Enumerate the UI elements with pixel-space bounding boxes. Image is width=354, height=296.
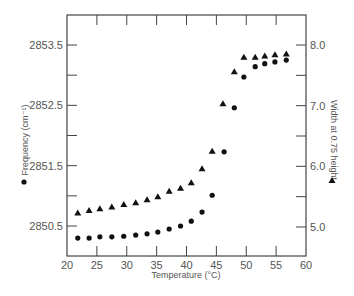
frequency-point [262,61,267,66]
left-y-tick-label: 2850.5 [29,220,63,232]
width-point [96,205,103,211]
frequency-point [75,235,80,240]
width-point [74,210,81,216]
left-y-tick-label: 2851.5 [29,160,63,172]
width-point [120,201,127,207]
x-tick-label: 55 [270,259,282,271]
x-tick-label: 50 [240,259,252,271]
width-point [271,51,278,57]
frequency-point [189,219,194,224]
width-point [209,148,216,154]
data-points [74,51,290,241]
frequency-point [178,223,183,228]
right-y-axis-ticks: 5.06.07.08.0 [296,39,325,233]
x-tick-label: 60 [300,259,312,271]
width-point [108,203,115,209]
width-point [252,54,259,60]
x-tick-label: 30 [121,259,133,271]
left-y-tick-label: 2852.5 [29,99,63,111]
frequency-point [121,234,126,239]
frequency-point [109,234,114,239]
width-point [199,165,206,171]
width-point [86,207,93,213]
width-point [154,193,161,199]
left-y-axis-label: Frequency (cm⁻¹) [20,104,30,175]
frequency-point [232,105,237,110]
frequency-point [87,235,92,240]
right-y-axis-label: Width at 0.75 height [329,100,339,181]
width-point [144,196,151,202]
width-point [166,188,173,194]
legend-circle-marker-icon [21,179,26,184]
left-y-axis-ticks: 2850.52851.52852.52853.5 [29,39,77,232]
frequency-point [272,59,277,64]
width-point [283,51,290,57]
right-y-tick-label: 6.0 [310,160,325,172]
frequency-point [155,229,160,234]
frequency-point [253,64,258,69]
right-y-tick-label: 8.0 [310,39,325,51]
plot-border [67,15,306,256]
dual-axis-scatter-chart: 202530354045505560 2850.52851.52852.5285… [0,0,354,296]
width-point [240,54,247,60]
plot-frame [67,15,306,256]
frequency-point [210,193,215,198]
frequency-point [199,210,204,215]
frequency-point [222,149,227,154]
right-y-tick-label: 5.0 [310,221,325,233]
frequency-point [167,226,172,231]
width-point [177,185,184,191]
width-point [219,100,226,106]
frequency-point [241,74,246,79]
width-point [261,52,268,58]
left-y-tick-label: 2853.5 [29,39,63,51]
frequency-point [284,57,289,62]
frequency-point [97,234,102,239]
x-tick-label: 25 [91,259,103,271]
frequency-point [144,231,149,236]
right-y-tick-label: 7.0 [310,100,325,112]
x-axis-label: Temperature (°C) [151,270,220,280]
x-tick-label: 20 [61,259,73,271]
width-point [231,68,238,74]
frequency-point [133,232,138,237]
width-point [132,199,139,205]
width-point [188,179,195,185]
